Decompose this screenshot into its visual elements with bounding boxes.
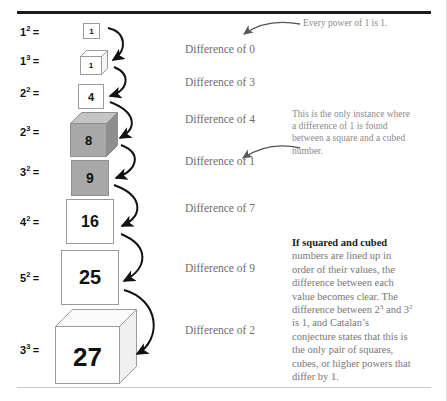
body-note-rest-b: and 3 (383, 304, 409, 315)
difference-label-3: Difference of 3 (185, 76, 255, 88)
difference-label-1: Difference of 1 (185, 155, 255, 167)
square-value-16: 16 (81, 213, 99, 231)
cube-figure-1: 1 (80, 50, 110, 76)
cube-value-1: 1 (80, 61, 102, 70)
callout-note-power-of-one: Every power of 1 is 1. (303, 17, 438, 29)
bottom-divider-rule (17, 387, 431, 388)
cube-figure-27: 27 (55, 309, 139, 385)
square-figure-1: 1 (83, 23, 100, 39)
square-figure-25: 25 (61, 250, 119, 305)
square-figure-9: 9 (71, 160, 109, 196)
infographic-canvas: 12= 13= 22= 23= 32= 42= 52= 33= 1 1 4 (0, 0, 447, 401)
arrow-1sq-to-1cu (108, 28, 123, 60)
body-note-rest-c: is 1, and Catalan’s conjecture states th… (292, 317, 411, 382)
difference-label-0: Difference of 0 (185, 43, 255, 55)
cube-value-8: 8 (70, 133, 107, 148)
equation-label-5-squared: 52= (20, 272, 39, 284)
callout-note-only-instance: This is the only instance where a differ… (292, 108, 414, 157)
arrow-4sq-to-5sq (121, 234, 142, 281)
cube-figure-8: 8 (70, 112, 120, 158)
equation-label-3-cubed: 33= (20, 344, 39, 356)
cube-value-27: 27 (55, 342, 120, 373)
difference-label-9: Difference of 9 (185, 262, 255, 274)
square-value-4: 4 (88, 91, 94, 103)
arrow-1cu-to-2sq (110, 67, 126, 96)
square-figure-4: 4 (78, 84, 104, 109)
top-divider-rule (17, 11, 431, 14)
body-note-catalan-conjecture: If squared and cubed numbers are lined u… (292, 236, 414, 383)
callout-arrow-power-of-one (244, 22, 300, 34)
arrow-3sq-to-4sq (114, 185, 137, 226)
equation-label-2-squared: 22= (20, 87, 39, 99)
equation-label-3-squared: 32= (20, 166, 39, 178)
equation-label-1-cubed: 13= (20, 55, 39, 67)
equation-label-2-cubed: 23= (20, 126, 39, 138)
difference-label-7: Difference of 7 (185, 202, 255, 214)
difference-label-2: Difference of 2 (185, 324, 255, 336)
square-value-25: 25 (79, 266, 101, 289)
square-value-9: 9 (86, 170, 94, 186)
difference-label-4: Difference of 4 (185, 113, 255, 125)
square-figure-16: 16 (66, 199, 114, 244)
body-note-sup-b: 2 (409, 303, 413, 311)
body-note-lead: If squared and cubed (292, 237, 387, 248)
square-value-1: 1 (89, 27, 93, 36)
equation-label-1-squared: 12= (20, 26, 39, 38)
equation-label-4-squared: 42= (20, 216, 39, 228)
